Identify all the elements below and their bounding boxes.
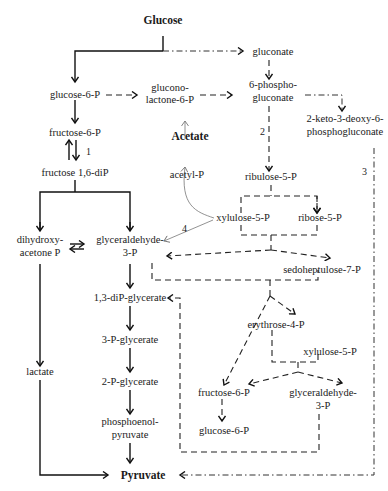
node-sedoheptulose-7-p: sedoheptulose-7-P — [283, 264, 361, 275]
node-glyceraldehyde-3-p-line2: 3-P — [123, 247, 138, 258]
node-glucose-6-p: glucose-6-P — [50, 89, 100, 100]
node-kdpg-line2: phosphogluconate — [307, 126, 384, 137]
node-glyceraldehyde-3-p-b: glyceraldehyde- — [289, 387, 357, 398]
pathway-number-2: 2 — [260, 126, 265, 137]
node-phosphoenolpyruvate-line2: pyruvate — [112, 429, 149, 440]
node-glyceraldehyde-3-p-b-line2: 3-P — [316, 400, 331, 411]
node-ribulose-5-p: ribulose-5-P — [245, 171, 297, 182]
metabolic-pathway-diagram: Glucose gluconate glucose-6-P glucono- l… — [0, 0, 388, 491]
node-acetate: Acetate — [171, 130, 208, 142]
node-2-p-glycerate: 2-P-glycerate — [102, 376, 159, 387]
node-pyruvate: Pyruvate — [121, 469, 166, 482]
node-6-phosphogluconate-line2: gluconate — [253, 92, 294, 103]
node-ribose-5-p: ribose-5-P — [298, 212, 342, 223]
node-kdpg: 2-keto-3-deoxy-6- — [307, 113, 384, 124]
pathway-number-4: 4 — [182, 223, 187, 234]
node-gluconolactone-6-p-line2: lactone-6-P — [146, 94, 195, 105]
node-glucose: Glucose — [144, 14, 183, 26]
node-phosphoenolpyruvate: phosphoenol- — [101, 416, 159, 427]
node-lactate: lactate — [26, 366, 54, 377]
node-fructose-1-6-dip: fructose 1,6-diP — [41, 167, 108, 178]
node-1-3-dip-glycerate: 1,3-diP-glycerate — [94, 292, 167, 303]
node-acetyl-p: acetyl-P — [170, 169, 205, 180]
node-labels: Glucose gluconate glucose-6-P glucono- l… — [17, 14, 384, 482]
pathway-number-1: 1 — [86, 146, 91, 157]
node-fructose-6-p-b: fructose-6-P — [198, 387, 250, 398]
node-xylulose-5-p-b: xylulose-5-P — [303, 346, 357, 357]
node-3-p-glycerate: 3-P-glycerate — [102, 334, 159, 345]
node-dihydroxyacetone-p-line2: acetone P — [20, 247, 61, 258]
node-erythrose-4-p: erythrose-4-P — [247, 319, 304, 330]
node-gluconate: gluconate — [253, 46, 294, 57]
node-dihydroxyacetone-p: dihydroxy- — [17, 234, 64, 245]
pathway-number-3: 3 — [362, 166, 367, 177]
node-glyceraldehyde-3-p: glyceraldehyde- — [96, 234, 164, 245]
node-xylulose-5-p: xylulose-5-P — [216, 212, 270, 223]
node-glucose-6-p-b: glucose-6-P — [199, 425, 249, 436]
node-6-phosphogluconate: 6-phospho- — [249, 79, 297, 90]
node-fructose-6-p: fructose-6-P — [49, 127, 101, 138]
node-gluconolactone-6-p: glucono- — [151, 82, 189, 93]
